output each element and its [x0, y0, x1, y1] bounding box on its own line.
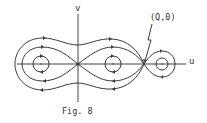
- arrow-right-icon: [40, 54, 43, 58]
- figure-caption: Fig. 8: [62, 106, 93, 116]
- u-axis-label: u: [189, 56, 194, 66]
- arrow-right-icon: [111, 45, 114, 49]
- arrow-right-icon: [160, 49, 162, 53]
- phase-portrait-svg: v u (Q,0) Fig. 8: [0, 0, 207, 123]
- left-center-point: [40, 63, 42, 65]
- right-center-point: [161, 63, 163, 65]
- arrow-right-icon: [111, 54, 114, 58]
- middle-center-point: [112, 63, 114, 65]
- arrow-left-icon: [40, 88, 43, 92]
- arrow-left-icon: [112, 70, 115, 74]
- arrow-right-icon: [109, 37, 112, 41]
- phase-portrait-figure: v u (Q,0) Fig. 8: [0, 0, 207, 123]
- arrow-left-icon: [112, 87, 115, 91]
- arrow-left-icon: [43, 79, 46, 83]
- arrow-right-icon: [41, 45, 44, 49]
- q-point-label: (Q,0): [150, 12, 176, 22]
- origin-saddle-point: [76, 62, 79, 65]
- q-saddle-point: [143, 63, 145, 65]
- arrow-left-icon: [112, 79, 115, 83]
- arrow-left-icon: [40, 70, 43, 74]
- arrow-right-icon: [43, 36, 46, 40]
- arrow-left-icon: [161, 75, 163, 79]
- v-axis-label: v: [75, 3, 80, 13]
